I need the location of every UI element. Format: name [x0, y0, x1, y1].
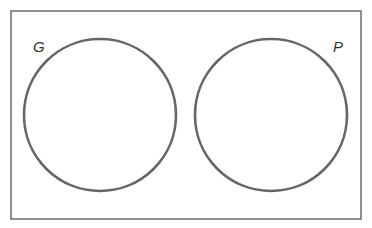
- set-p-circle: [195, 39, 347, 191]
- venn-diagram: G P: [0, 0, 372, 228]
- universe-rectangle: [11, 11, 361, 219]
- set-p-label: P: [333, 38, 343, 55]
- set-g-circle: [24, 39, 176, 191]
- set-g-label: G: [33, 38, 45, 55]
